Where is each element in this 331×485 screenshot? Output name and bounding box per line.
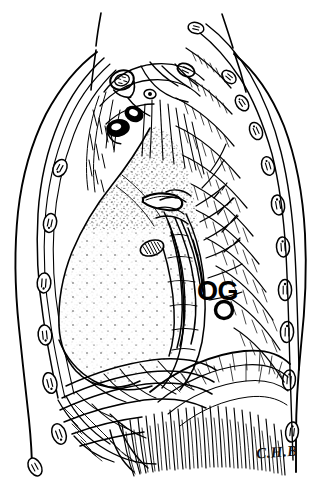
thorax-illustration-canvas: [0, 0, 331, 485]
anatomical-illustration-figure: OG C.H.B: [0, 0, 331, 485]
intercostal-hatching: [184, 52, 284, 382]
costodiaphragmatic-recess: [58, 396, 156, 464]
artist-signature: C.H.B: [255, 443, 298, 462]
structure-label-og: OG: [197, 278, 238, 305]
diaphragm-fibers: [122, 406, 285, 476]
